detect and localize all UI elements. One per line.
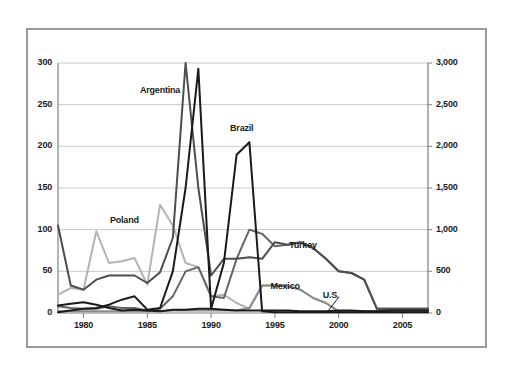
y-axis-tick-label: 0 [18, 307, 52, 317]
x-axis-tick-label: 1990 [191, 320, 231, 330]
y2-axis-tick-label: 0 [436, 307, 476, 317]
y-axis-tick-label: 250 [18, 99, 52, 109]
y-axis-tick-label: 300 [18, 57, 52, 67]
series-label-turkey: Turkey [289, 240, 317, 250]
x-axis-tick-label: 1980 [64, 320, 104, 330]
x-axis-tick-label: 1985 [127, 320, 167, 330]
x-axis-tick-label: 2000 [319, 320, 359, 330]
y-axis-tick-label: 100 [18, 224, 52, 234]
series-label-brazil: Brazil [230, 123, 253, 133]
x-axis-tick-label: 2005 [382, 320, 422, 330]
y-axis-tick-label: 200 [18, 140, 52, 150]
series-label-mexico: Mexico [270, 281, 299, 291]
series-label-poland: Poland [110, 215, 139, 225]
series-line-argentina [58, 63, 428, 309]
y-axis-tick-label: 50 [18, 265, 52, 275]
y2-axis-tick-label: 1,000 [436, 224, 476, 234]
x-axis-tick-label: 1995 [255, 320, 295, 330]
chart-page: 05010015020025030005001,0001,5002,0002,5… [0, 0, 514, 372]
y-axis-tick-label: 150 [18, 182, 52, 192]
y2-axis-tick-label: 2,000 [436, 140, 476, 150]
y2-axis-tick-label: 3,000 [436, 57, 476, 67]
y2-axis-tick-label: 2,500 [436, 99, 476, 109]
y2-axis-tick-label: 1,500 [436, 182, 476, 192]
series-label-us: U.S. [323, 290, 340, 300]
y2-axis-tick-label: 500 [436, 265, 476, 275]
series-label-argentina: Argentina [140, 85, 180, 95]
